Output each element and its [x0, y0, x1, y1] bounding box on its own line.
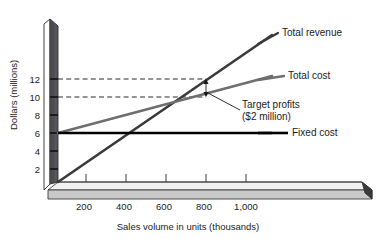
y-axis-tick-labels: 12 10 8 6 4 2 [29, 74, 40, 175]
target-profits-leader [206, 92, 240, 110]
x-tick-label-1000: 1,000 [234, 201, 258, 212]
x-axis-3d-floor [48, 182, 372, 199]
total-revenue-label: Total revenue [282, 27, 342, 38]
y-axis-left-sliver [44, 19, 50, 190]
y-tick-label-4: 4 [35, 146, 40, 157]
target-profits-bracket [203, 79, 240, 110]
y-tick-label-6: 6 [35, 128, 40, 139]
total-cost-line [58, 76, 272, 133]
total-revenue-line [58, 35, 272, 182]
cvp-chart-svg: 12 10 8 6 4 2 Dollars (millions) 200 400… [0, 0, 376, 239]
chart-figure: 12 10 8 6 4 2 Dollars (millions) 200 400… [0, 0, 376, 239]
y-axis-shade [50, 19, 54, 184]
y-axis-title: Dollars (millions) [8, 60, 19, 130]
y-tick-label-12: 12 [29, 74, 40, 85]
floor-top-face [48, 182, 372, 190]
target-profits-annotation: Target profits ($2 million) [242, 99, 300, 122]
y-tick-label-8: 8 [35, 110, 40, 121]
target-profits-label-line2: ($2 million) [242, 111, 291, 122]
target-profits-label-line1: Target profits [242, 99, 300, 110]
x-tick-label-600: 600 [156, 201, 172, 212]
y-tick-label-2: 2 [35, 164, 40, 175]
y-tick-label-10: 10 [29, 92, 40, 103]
x-tick-label-400: 400 [116, 201, 132, 212]
x-tick-label-200: 200 [76, 201, 92, 212]
x-tick-label-800: 800 [196, 201, 212, 212]
series-total-revenue [58, 35, 272, 182]
fixed-cost-label: Fixed cost [292, 127, 338, 138]
fixed-cost-label-group: Fixed cost [258, 127, 338, 138]
total-revenue-leader [258, 33, 278, 44]
x-axis-tick-labels: 200 400 600 800 1,000 [76, 201, 258, 212]
floor-front-face [48, 190, 372, 199]
x-axis-ticks [86, 174, 246, 182]
y-axis-3d-bar [44, 19, 58, 190]
series-total-cost [58, 76, 272, 133]
total-cost-label: Total cost [288, 70, 330, 81]
x-axis-title: Sales volume in units (thousands) [117, 221, 260, 232]
